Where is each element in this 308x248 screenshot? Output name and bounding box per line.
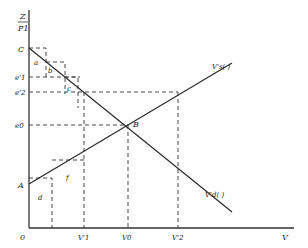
origin-label: 0	[20, 233, 25, 242]
point-c-label: C	[18, 45, 24, 54]
supply-curve-label: V's( )	[212, 63, 231, 71]
point-a-label: A	[17, 181, 24, 190]
tick-v1: V'1	[78, 234, 89, 242]
region-a: a	[34, 59, 38, 67]
region-c: c	[67, 85, 71, 93]
diagram-canvas: Z P1 0 V C A B e'1 e'2 e0 V'1 V0 V'2 a b…	[0, 0, 308, 248]
point-b-label: B	[132, 120, 139, 129]
y-axis-label-top: Z	[19, 12, 26, 21]
tick-e2: e'2	[15, 89, 26, 97]
tick-e1: e'1	[15, 74, 26, 82]
demand-curve-label: V'd( )	[205, 191, 224, 199]
region-f: f	[65, 174, 70, 182]
demand-curve	[29, 48, 232, 212]
supply-curve	[29, 63, 232, 184]
y-axis-label-bottom: P1	[17, 24, 28, 33]
tick-v0: V0	[122, 234, 132, 242]
step-d	[29, 178, 52, 228]
x-axis-label: V	[282, 233, 289, 242]
tick-e0: e0	[15, 122, 24, 130]
region-b: b	[48, 67, 53, 75]
tick-v2: V'2	[172, 234, 184, 242]
region-d: d	[38, 194, 43, 202]
